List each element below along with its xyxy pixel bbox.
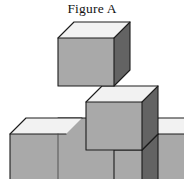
middle-right-cube-left-face — [86, 102, 142, 150]
cube-middle-right — [86, 86, 158, 150]
cube-top — [58, 22, 130, 86]
top-cube-left-face — [58, 38, 114, 86]
figure-panel: Figure A — [0, 0, 184, 179]
cube-stack-illustration — [0, 0, 184, 179]
